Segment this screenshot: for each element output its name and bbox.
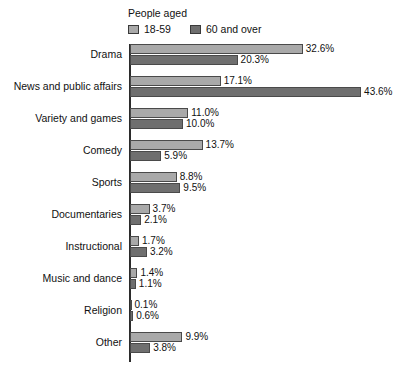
bar-group-instructional: Instructional1.7%3.2% [0,236,404,258]
legend-label-18-59: 18-59 [144,24,171,35]
plot-area: Drama32.6%20.3%News and public affairs17… [0,44,404,374]
category-label-religion: Religion [0,304,122,317]
bar-group-comedy: Comedy13.7%5.9% [0,140,404,162]
category-label-documentaries: Documentaries [0,208,122,221]
bar-documentaries-18-59: 3.7% [130,204,150,214]
bar-fill [130,119,183,129]
bar-other-18-59: 9.9% [130,332,182,342]
bar-value-other-60-and-over: 3.8% [153,342,176,354]
bar-group-music-and-dance: Music and dance1.4%1.1% [0,268,404,290]
bar-value-drama-18-59: 32.6% [306,43,334,55]
bar-group-sports: Sports8.8%9.5% [0,172,404,194]
legend-entry-60-and-over: 60 and over [190,24,261,35]
bar-fill [130,311,133,321]
bar-religion-18-59: 0.1% [130,300,132,310]
bar-fill [130,44,303,54]
bar-news-and-public-affairs-60-and-over: 43.6% [130,87,361,97]
bar-fill [130,268,137,278]
category-label-comedy: Comedy [0,144,122,157]
bar-fill [130,151,161,161]
bar-fill [130,108,188,118]
category-label-sports: Sports [0,176,122,189]
category-label-variety-and-games: Variety and games [0,112,122,125]
category-label-news-and-public-affairs: News and public affairs [0,80,122,93]
bar-fill [130,172,177,182]
bar-group-news-and-public-affairs: News and public affairs17.1%43.6% [0,76,404,98]
legend-swatch-18-59 [128,25,139,34]
bar-value-sports-60-and-over: 9.5% [183,182,206,194]
bar-news-and-public-affairs-18-59: 17.1% [130,76,221,86]
bar-value-comedy-18-59: 13.7% [206,139,234,151]
bar-comedy-60-and-over: 5.9% [130,151,161,161]
bar-value-documentaries-60-and-over: 2.1% [144,214,167,226]
bar-instructional-60-and-over: 3.2% [130,247,147,257]
bar-fill [130,279,136,289]
bar-group-documentaries: Documentaries3.7%2.1% [0,204,404,226]
bar-fill [130,215,141,225]
bar-fill [130,332,182,342]
bar-fill [130,76,221,86]
bar-fill [130,236,139,246]
bar-group-religion: Religion0.1%0.6% [0,300,404,322]
chart-legend: People aged 18-59 60 and over [128,7,388,35]
bar-music-and-dance-18-59: 1.4% [130,268,137,278]
bar-fill [130,300,132,310]
bar-instructional-18-59: 1.7% [130,236,139,246]
legend-swatch-60-and-over [190,25,201,34]
bar-chart: People aged 18-59 60 and over Drama32.6%… [0,0,404,385]
bar-fill [130,247,147,257]
bar-fill [130,204,150,214]
bar-variety-and-games-60-and-over: 10.0% [130,119,183,129]
bar-comedy-18-59: 13.7% [130,140,203,150]
legend-title: People aged [128,7,388,19]
bar-fill [130,343,150,353]
bar-fill [130,140,203,150]
bar-group-other: Other9.9%3.8% [0,332,404,354]
bar-group-variety-and-games: Variety and games11.0%10.0% [0,108,404,130]
bar-fill [130,87,361,97]
bar-value-variety-and-games-60-and-over: 10.0% [186,118,214,130]
bar-value-instructional-60-and-over: 3.2% [150,246,173,258]
legend-entry-18-59: 18-59 [128,24,190,35]
category-label-instructional: Instructional [0,240,122,253]
bar-fill [130,55,238,65]
bar-value-music-and-dance-60-and-over: 1.1% [139,278,162,290]
bar-variety-and-games-18-59: 11.0% [130,108,188,118]
bar-other-60-and-over: 3.8% [130,343,150,353]
bar-value-religion-60-and-over: 0.6% [136,310,159,322]
bar-drama-18-59: 32.6% [130,44,303,54]
bar-sports-60-and-over: 9.5% [130,183,180,193]
bar-value-other-18-59: 9.9% [185,331,208,343]
bar-sports-18-59: 8.8% [130,172,177,182]
bar-fill [130,183,180,193]
legend-label-60-and-over: 60 and over [206,24,261,35]
category-label-drama: Drama [0,48,122,61]
bar-value-drama-60-and-over: 20.3% [241,54,269,66]
bar-group-drama: Drama32.6%20.3% [0,44,404,66]
bar-religion-60-and-over: 0.6% [130,311,133,321]
bar-value-comedy-60-and-over: 5.9% [164,150,187,162]
category-label-other: Other [0,336,122,349]
category-label-music-and-dance: Music and dance [0,272,122,285]
bar-value-news-and-public-affairs-18-59: 17.1% [224,75,252,87]
bar-documentaries-60-and-over: 2.1% [130,215,141,225]
bar-value-news-and-public-affairs-60-and-over: 43.6% [364,86,392,98]
bar-music-and-dance-60-and-over: 1.1% [130,279,136,289]
legend-items: 18-59 60 and over [128,24,388,35]
bar-drama-60-and-over: 20.3% [130,55,238,65]
